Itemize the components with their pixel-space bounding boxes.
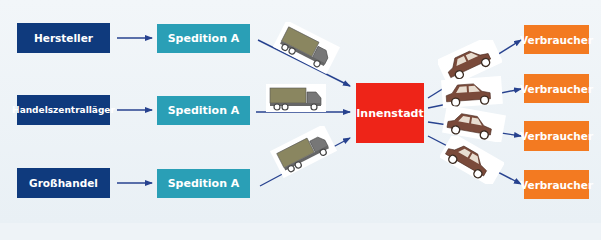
hub-innenstadt: Innenstadt bbox=[356, 83, 424, 143]
truck-icon bbox=[266, 84, 326, 112]
consumer-label: Verbraucher bbox=[520, 34, 593, 46]
forwarder-label: Spedition A bbox=[168, 32, 240, 45]
consumer-box-3: Verbraucher bbox=[524, 121, 589, 151]
source-handelszentrallager: Handelszentralläger bbox=[17, 95, 110, 125]
consumer-label: Verbraucher bbox=[520, 83, 593, 95]
forwarder-box-2: Spedition A bbox=[157, 96, 250, 125]
car-icon bbox=[440, 136, 504, 184]
source-label: Handelszentralläger bbox=[12, 105, 115, 115]
forwarder-label: Spedition A bbox=[168, 104, 240, 117]
consumer-box-1: Verbraucher bbox=[524, 25, 589, 54]
truck-icon bbox=[266, 126, 342, 178]
consumer-label: Verbraucher bbox=[520, 130, 593, 142]
truck-icon bbox=[268, 22, 344, 74]
source-label: Hersteller bbox=[34, 32, 93, 44]
source-grosshandel: Großhandel bbox=[17, 168, 110, 198]
consumer-box-4: Verbraucher bbox=[524, 170, 589, 199]
forwarder-box-1: Spedition A bbox=[157, 24, 250, 53]
consumer-box-2: Verbraucher bbox=[524, 74, 589, 103]
forwarder-box-3: Spedition A bbox=[157, 169, 250, 198]
hub-label: Innenstadt bbox=[356, 107, 423, 120]
consumer-label: Verbraucher bbox=[520, 179, 593, 191]
source-hersteller: Hersteller bbox=[17, 23, 110, 53]
source-label: Großhandel bbox=[29, 177, 98, 189]
car-icon bbox=[440, 76, 504, 108]
forwarder-label: Spedition A bbox=[168, 177, 240, 190]
